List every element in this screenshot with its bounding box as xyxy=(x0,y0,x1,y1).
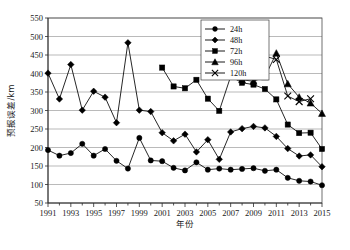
marker-square xyxy=(217,108,222,113)
x-tick-label-2015: 2015 xyxy=(314,208,331,218)
x-tick-label-2013: 2013 xyxy=(291,208,308,218)
y-tick-label-550: 550 xyxy=(30,13,43,23)
x-tick-label-1997: 1997 xyxy=(108,208,125,218)
legend: 24h48h72h96h120h xyxy=(201,20,269,80)
marker-circle xyxy=(239,166,244,171)
marker-circle xyxy=(102,146,107,151)
forecast-error-line-chart: 5010015020025030035040045050055019911993… xyxy=(0,0,350,250)
x-tick-label-1991: 1991 xyxy=(40,208,57,218)
legend-label-120h: 120h xyxy=(230,69,246,78)
x-tick-label-1993: 1993 xyxy=(62,208,79,218)
y-tick-label-150: 150 xyxy=(30,161,43,171)
marker-circle xyxy=(285,175,290,180)
y-tick-label-400: 400 xyxy=(30,69,43,79)
x-tick-label-2001: 2001 xyxy=(154,208,171,218)
marker-circle xyxy=(205,167,210,172)
x-tick-label-2009: 2009 xyxy=(245,208,262,218)
marker-circle xyxy=(171,165,176,170)
marker-circle xyxy=(228,167,233,172)
marker-square xyxy=(297,130,302,135)
x-tick-label-2011: 2011 xyxy=(268,208,285,218)
y-tick-label-250: 250 xyxy=(30,124,43,134)
y-tick-label-200: 200 xyxy=(30,143,43,153)
marker-circle xyxy=(68,150,73,155)
y-tick-label-300: 300 xyxy=(30,106,43,116)
marker-circle xyxy=(137,135,142,140)
marker-square xyxy=(285,122,290,127)
y-axis-title: 预报误差/km xyxy=(6,84,16,136)
marker-square xyxy=(262,86,267,91)
marker-circle xyxy=(308,179,313,184)
marker-circle xyxy=(80,141,85,146)
marker-circle xyxy=(217,166,222,171)
marker-square xyxy=(274,97,279,102)
marker-circle xyxy=(319,183,324,188)
x-tick-label-2007: 2007 xyxy=(222,208,239,218)
marker-circle xyxy=(57,153,62,158)
marker-circle xyxy=(274,167,279,172)
marker-circle xyxy=(213,27,218,32)
marker-circle xyxy=(148,158,153,163)
marker-square xyxy=(171,84,176,89)
marker-square xyxy=(213,49,218,54)
chart-canvas: 5010015020025030035040045050055019911993… xyxy=(0,0,350,250)
marker-circle xyxy=(251,166,256,171)
y-tick-label-500: 500 xyxy=(30,32,43,42)
y-tick-label-50: 50 xyxy=(35,198,44,208)
marker-square xyxy=(160,65,165,70)
marker-circle xyxy=(160,159,165,164)
marker-circle xyxy=(262,168,267,173)
x-axis-title: 年份 xyxy=(176,219,194,229)
marker-circle xyxy=(114,158,119,163)
marker-circle xyxy=(182,168,187,173)
y-tick-label-350: 350 xyxy=(30,87,43,97)
marker-circle xyxy=(45,147,50,152)
y-tick-label-450: 450 xyxy=(30,50,43,60)
marker-square xyxy=(308,130,313,135)
marker-square xyxy=(182,86,187,91)
x-tick-label-2003: 2003 xyxy=(177,208,194,218)
x-tick-label-1995: 1995 xyxy=(85,208,102,218)
marker-square xyxy=(319,146,324,151)
x-tick-label-2005: 2005 xyxy=(199,208,216,218)
y-tick-label-100: 100 xyxy=(30,180,43,190)
marker-circle xyxy=(91,153,96,158)
marker-square xyxy=(194,77,199,82)
legend-label-24h: 24h xyxy=(230,25,242,34)
legend-label-96h: 96h xyxy=(230,58,242,67)
x-tick-label-1999: 1999 xyxy=(131,208,148,218)
marker-circle xyxy=(125,166,130,171)
marker-circle xyxy=(194,160,199,165)
marker-circle xyxy=(297,178,302,183)
legend-label-48h: 48h xyxy=(230,36,242,45)
legend-label-72h: 72h xyxy=(230,47,242,56)
marker-square xyxy=(205,96,210,101)
